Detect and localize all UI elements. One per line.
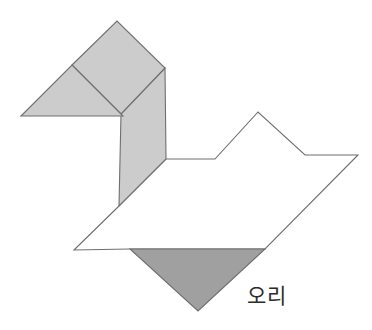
tangram-figure-canvas: 오리 xyxy=(0,0,372,330)
figure-caption: 오리 xyxy=(247,284,286,307)
